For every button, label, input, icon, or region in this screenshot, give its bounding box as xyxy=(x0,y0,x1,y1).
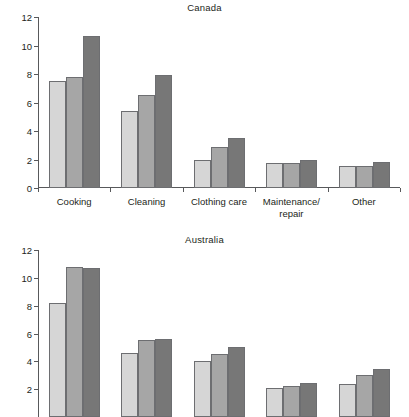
bar xyxy=(83,36,100,188)
chart-title-canada: Canada xyxy=(0,2,409,13)
bar xyxy=(194,160,211,189)
bar xyxy=(339,166,356,188)
bar-group xyxy=(49,250,100,417)
chart-panel-canada: Canada 024681012CookingCleaningClothing … xyxy=(0,0,409,228)
y-tick-label: 12 xyxy=(21,245,32,256)
y-axis-line xyxy=(38,250,39,417)
bar xyxy=(373,369,390,417)
plot-area-australia: 24681012 xyxy=(38,250,400,417)
bar xyxy=(211,354,228,417)
x-category-label: Cooking xyxy=(57,196,92,208)
bar xyxy=(49,81,66,188)
bar xyxy=(66,267,83,417)
bar-group xyxy=(266,250,317,417)
bar-group xyxy=(121,17,172,188)
y-tick-mark xyxy=(34,74,38,75)
x-category-label: Clothing care xyxy=(191,196,247,208)
bar-group xyxy=(339,17,390,188)
bar xyxy=(138,340,155,417)
x-tick-mark xyxy=(328,188,329,192)
bar xyxy=(194,361,211,417)
chart-panel-australia: Australia 24681012 xyxy=(0,232,409,417)
y-tick-label: 12 xyxy=(21,12,32,23)
y-tick-label: 10 xyxy=(21,272,32,283)
bar xyxy=(138,95,155,188)
bar xyxy=(121,111,138,188)
bar xyxy=(155,75,172,188)
y-tick-mark xyxy=(34,17,38,18)
x-tick-mark xyxy=(400,188,401,192)
bar xyxy=(155,339,172,417)
y-tick-mark xyxy=(34,160,38,161)
bar xyxy=(121,353,138,417)
bar-group xyxy=(194,17,245,188)
bar xyxy=(356,166,373,188)
y-tick-label: 2 xyxy=(27,154,32,165)
y-tick-label: 8 xyxy=(27,300,32,311)
bar xyxy=(66,77,83,188)
y-tick-label: 2 xyxy=(27,384,32,395)
bar xyxy=(373,162,390,188)
bar xyxy=(211,147,228,188)
y-tick-mark xyxy=(34,334,38,335)
bar-group xyxy=(194,250,245,417)
x-category-label: Cleaning xyxy=(128,196,166,208)
y-tick-mark xyxy=(34,278,38,279)
y-tick-label: 0 xyxy=(27,183,32,194)
y-tick-label: 8 xyxy=(27,69,32,80)
bar xyxy=(266,163,283,188)
y-tick-mark xyxy=(34,131,38,132)
x-category-label: Other xyxy=(352,196,376,208)
y-tick-mark xyxy=(34,46,38,47)
bar-group xyxy=(266,17,317,188)
plot-area-canada: 024681012CookingCleaningClothing careMai… xyxy=(38,17,400,188)
bar xyxy=(300,383,317,417)
x-tick-mark xyxy=(38,188,39,192)
y-tick-label: 6 xyxy=(27,97,32,108)
bar-group xyxy=(339,250,390,417)
y-tick-label: 6 xyxy=(27,328,32,339)
y-tick-label: 10 xyxy=(21,40,32,51)
y-tick-mark xyxy=(34,389,38,390)
y-tick-mark xyxy=(34,103,38,104)
bar xyxy=(356,375,373,417)
x-tick-mark xyxy=(255,188,256,192)
bar xyxy=(83,268,100,417)
y-tick-mark xyxy=(34,306,38,307)
y-tick-label: 4 xyxy=(27,126,32,137)
y-tick-mark xyxy=(34,250,38,251)
x-tick-mark xyxy=(183,188,184,192)
x-tick-mark xyxy=(110,188,111,192)
bar xyxy=(283,386,300,417)
y-tick-label: 4 xyxy=(27,356,32,367)
chart-title-australia: Australia xyxy=(0,234,409,245)
bar xyxy=(300,160,317,188)
bar-group xyxy=(121,250,172,417)
bar xyxy=(228,347,245,417)
y-axis-line xyxy=(38,17,39,188)
bar-group xyxy=(49,17,100,188)
bar xyxy=(339,384,356,417)
x-category-label: Maintenance/ repair xyxy=(263,196,320,219)
bar xyxy=(228,138,245,188)
y-tick-mark xyxy=(34,361,38,362)
bar xyxy=(49,303,66,417)
bar xyxy=(283,163,300,188)
bar xyxy=(266,388,283,417)
